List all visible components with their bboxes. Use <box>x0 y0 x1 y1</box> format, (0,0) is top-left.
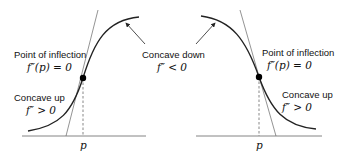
left-p-label: p <box>80 139 87 151</box>
right-inflection-eq: f″(p) = 0 <box>266 59 312 71</box>
right-inflection-point <box>256 74 262 80</box>
left-graph: Point of inflection f″(p) = 0 Concave up… <box>14 10 146 151</box>
right-concave-up-eq: f″ > 0 <box>281 101 312 113</box>
right-p-label: p <box>256 139 263 151</box>
left-inflection-label: Point of inflection <box>14 49 86 60</box>
inflection-diagram: Point of inflection f″(p) = 0 Concave up… <box>0 0 341 160</box>
right-arrow <box>196 23 215 44</box>
left-concave-up-label: Concave up <box>14 92 65 103</box>
concave-down-annotation: Concave down f″ < 0 <box>126 23 215 73</box>
left-inflection-point <box>80 75 86 81</box>
right-graph: Point of inflection f″(p) = 0 Concave up… <box>196 10 334 151</box>
right-concave-up-label: Concave up <box>282 89 333 100</box>
concave-down-label: Concave down <box>142 49 205 60</box>
left-inflection-eq: f″(p) = 0 <box>26 61 72 73</box>
concave-down-eq: f″ < 0 <box>156 61 187 73</box>
left-arrow <box>126 23 145 44</box>
left-concave-up-eq: f″ > 0 <box>25 104 56 116</box>
right-inflection-label: Point of inflection <box>262 47 334 58</box>
left-tangent-line <box>66 10 98 136</box>
